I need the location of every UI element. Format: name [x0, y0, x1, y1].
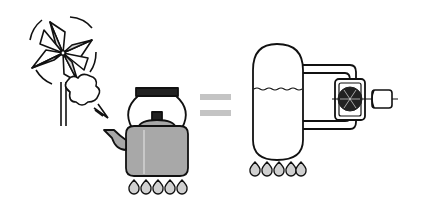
kettle-turbine-diagram — [0, 0, 422, 207]
generator-icon — [372, 90, 392, 108]
boiler-tank-icon — [253, 44, 303, 160]
equals-icon — [200, 94, 231, 116]
pinwheel-icon — [30, 17, 96, 126]
boiler-flames-icon — [250, 162, 306, 176]
kettle-icon — [104, 88, 188, 176]
kettle-flames-icon — [129, 180, 187, 194]
steam-cloud-icon — [65, 74, 108, 118]
